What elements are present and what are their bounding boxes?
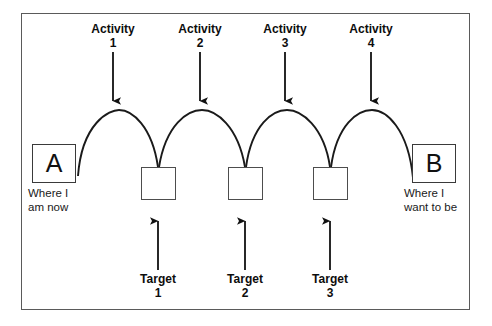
target-label-3: Target 3 bbox=[295, 272, 365, 300]
target-label-1-line2: 1 bbox=[123, 286, 193, 300]
activity-label-3: Activity 3 bbox=[250, 22, 320, 50]
endpoint-caption-a: Where I am now bbox=[28, 187, 108, 214]
endpoint-letter-b: B bbox=[426, 151, 443, 176]
target-label-2-line1: Target bbox=[210, 272, 280, 286]
activity-label-3-line2: 3 bbox=[250, 36, 320, 50]
activity-label-4-line1: Activity bbox=[336, 22, 406, 36]
activity-label-1-line1: Activity bbox=[78, 22, 148, 36]
target-label-2: Target 2 bbox=[210, 272, 280, 300]
activity-label-1: Activity 1 bbox=[78, 22, 148, 50]
endpoint-letter-a: A bbox=[46, 151, 63, 176]
target-arrow-group bbox=[158, 221, 330, 270]
arc-2 bbox=[159, 110, 245, 167]
activity-label-2-line2: 2 bbox=[165, 36, 235, 50]
target-label-1: Target 1 bbox=[123, 272, 193, 300]
activity-label-2: Activity 2 bbox=[165, 22, 235, 50]
target-box-3 bbox=[313, 167, 348, 200]
target-box-1 bbox=[141, 167, 176, 200]
endpoint-box-b: B bbox=[412, 144, 456, 183]
activity-label-4-line2: 4 bbox=[336, 36, 406, 50]
endpoint-caption-b: Where I want to be bbox=[404, 187, 490, 214]
target-box-2 bbox=[228, 167, 263, 200]
diagram-root: A Where I am now B Where I want to be Ac… bbox=[0, 0, 492, 326]
arc-3 bbox=[246, 110, 330, 167]
endpoint-box-a: A bbox=[32, 144, 76, 183]
activity-label-3-line1: Activity bbox=[250, 22, 320, 36]
activity-label-4: Activity 4 bbox=[336, 22, 406, 50]
activity-arrow-group bbox=[113, 52, 371, 101]
target-label-3-line1: Target bbox=[295, 272, 365, 286]
activity-label-1-line2: 1 bbox=[78, 36, 148, 50]
target-label-2-line2: 2 bbox=[210, 286, 280, 300]
target-label-1-line1: Target bbox=[123, 272, 193, 286]
activity-label-2-line1: Activity bbox=[165, 22, 235, 36]
target-label-3-line2: 3 bbox=[295, 286, 365, 300]
